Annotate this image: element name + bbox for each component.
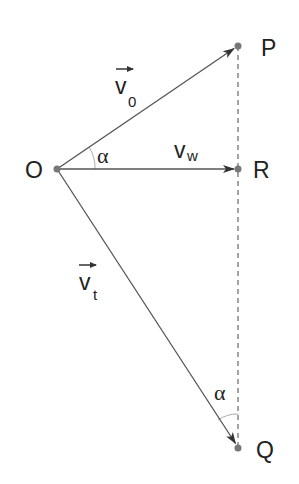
label-vw-subscript: w: [186, 147, 198, 164]
angle-arc-o: [89, 147, 95, 169]
angle-label-q: α: [214, 380, 226, 405]
point-p: [235, 43, 242, 50]
angle-arc-q: [218, 414, 238, 420]
point-o: [54, 166, 61, 173]
label-p: P: [261, 35, 276, 61]
label-v0-subscript: 0: [128, 93, 136, 110]
angle-label-o: α: [97, 143, 109, 168]
point-q: [235, 445, 242, 452]
label-q: Q: [256, 437, 274, 463]
label-v0: v: [115, 73, 127, 99]
vector-v0-arrow: [57, 49, 234, 170]
vector-diagram: O P R Q v 0 v w v t α α: [0, 0, 299, 484]
label-r: R: [253, 157, 270, 183]
label-o: O: [25, 157, 43, 183]
label-vt-subscript: t: [93, 286, 98, 303]
vector-vt-arrow: [57, 169, 236, 444]
label-vt: v: [79, 269, 91, 295]
label-vw: v: [174, 137, 186, 163]
point-r: [235, 166, 242, 173]
